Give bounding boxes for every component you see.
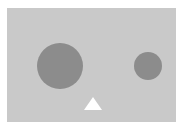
small-circle-shape bbox=[134, 52, 162, 80]
scene-canvas bbox=[0, 0, 186, 130]
large-circle-shape bbox=[37, 43, 83, 89]
